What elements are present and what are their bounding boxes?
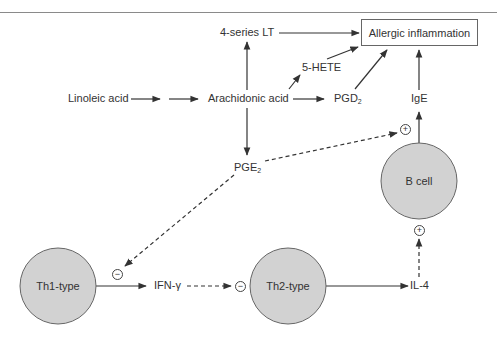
arrow-pge2-to-th1-minus <box>125 175 234 266</box>
arrow-hete-to-inflammation <box>327 47 358 59</box>
pgd2-sub: 2 <box>358 98 362 105</box>
node-ifn-gamma: IFN-γ <box>154 279 181 292</box>
plus-sign-il4-bcell: + <box>414 225 425 236</box>
th1-cell-label: Th1-type <box>28 280 88 293</box>
node-il4: IL-4 <box>410 279 429 292</box>
th2-cell-label: Th2-type <box>258 280 318 293</box>
node-5-hete: 5-HETE <box>302 61 341 74</box>
plus-sign-pge2-bcell: + <box>400 124 411 135</box>
arrow-pgd2-to-inflammation <box>355 50 387 89</box>
allergic-inflammation-box: Allergic inflammation <box>361 19 478 46</box>
node-arachidonic-acid: Arachidonic acid <box>208 92 289 105</box>
arrow-aa-to-hete <box>289 75 300 89</box>
allergic-inflammation-label: Allergic inflammation <box>369 27 470 39</box>
node-pge2: PGE2 <box>234 161 261 174</box>
node-pgd2: PGD2 <box>334 92 362 105</box>
node-ige: IgE <box>411 92 428 105</box>
node-4-series-lt: 4-series LT <box>220 26 274 39</box>
minus-sign-pge2-th1: − <box>112 269 123 280</box>
minus-sign-ifn-th2: − <box>235 281 246 292</box>
node-linoleic-acid: Linoleic acid <box>68 92 129 105</box>
pge2-base: PGE <box>234 161 257 173</box>
pge2-sub: 2 <box>257 167 261 174</box>
b-cell-label: B cell <box>389 175 449 188</box>
arrow-pge2-to-bcell-plus <box>265 133 397 161</box>
pgd2-base: PGD <box>334 92 358 104</box>
